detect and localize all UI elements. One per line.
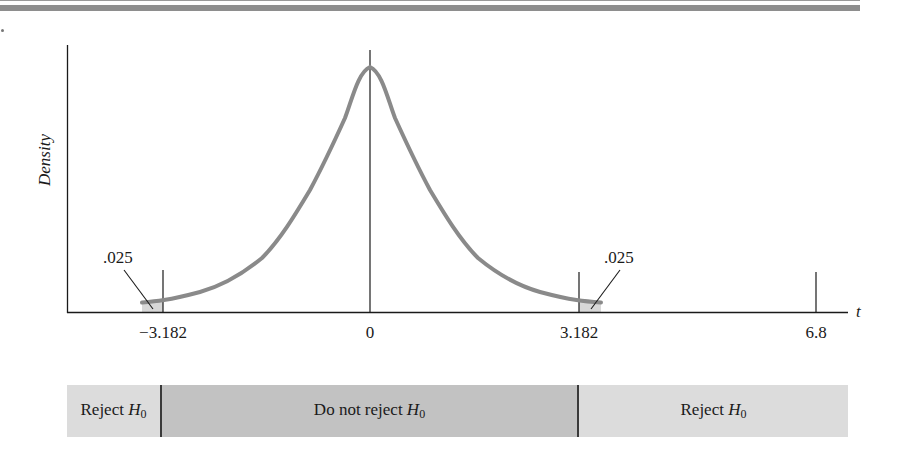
region-reject-right: Reject H0 bbox=[579, 385, 848, 437]
region-label: Do not reject H0 bbox=[314, 400, 425, 422]
tick-label-test-statistic: 6.8 bbox=[805, 323, 826, 343]
tick-label-pos-critical: 3.182 bbox=[560, 323, 598, 343]
right-tail-label: .025 bbox=[604, 248, 634, 268]
region-reject-left: Reject H0 bbox=[67, 385, 162, 437]
x-axis-label: t bbox=[856, 302, 861, 322]
region-label: Reject H0 bbox=[681, 400, 747, 422]
right-tail-leader bbox=[591, 270, 620, 309]
decision-regions-bar: Reject H0 Do not reject H0 Reject H0 bbox=[67, 385, 848, 437]
left-tail-label: .025 bbox=[103, 248, 133, 268]
tick-label-zero: 0 bbox=[366, 323, 375, 343]
region-label: Reject H0 bbox=[81, 400, 147, 422]
region-do-not-reject: Do not reject H0 bbox=[162, 385, 579, 437]
y-axis-label: Density bbox=[35, 134, 55, 186]
left-tail-leader bbox=[124, 270, 153, 309]
density-curve bbox=[142, 67, 601, 303]
tick-label-neg-critical: −3.182 bbox=[139, 323, 187, 343]
